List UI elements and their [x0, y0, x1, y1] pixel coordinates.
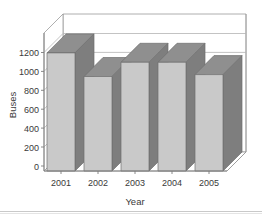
y-tick-label-200: 200: [24, 143, 39, 153]
y-tick-label-400: 400: [24, 124, 39, 134]
x-tick-label-2001: 2001: [51, 178, 71, 188]
y-tick-label-1200: 1200: [19, 48, 39, 58]
y-tick-labels: 1200 1000 800 600 400 200 0: [19, 48, 39, 172]
y-axis: [41, 33, 44, 171]
y-axis-title: Buses: [7, 92, 18, 119]
bar-2002-front: [84, 77, 112, 172]
bar-2001-front: [47, 53, 75, 171]
x-tick-label-2003: 2003: [125, 178, 145, 188]
x-axis-title: Year: [125, 196, 144, 207]
bar-2004-front: [158, 62, 186, 171]
bar-2005[interactable]: [195, 56, 242, 171]
x-tick-labels: 2001 2002 2003 2004 2005: [51, 178, 219, 188]
x-tick-label-2002: 2002: [88, 178, 108, 188]
y-tick-label-600: 600: [24, 105, 39, 115]
bar-2005-front: [195, 75, 223, 171]
bottom-divider: [0, 211, 262, 212]
y-tick-label-1000: 1000: [19, 67, 39, 77]
chart-canvas: 1200 1000 800 600 400 200 0 Buses: [0, 0, 262, 221]
bar-chart: 1200 1000 800 600 400 200 0 Buses: [0, 0, 262, 221]
bottom-divider-secondary: [0, 213, 262, 214]
bar-2003-front: [121, 62, 149, 171]
y-tick-label-800: 800: [24, 86, 39, 96]
bar-2005-side: [223, 56, 242, 171]
x-tick-label-2004: 2004: [162, 178, 182, 188]
x-tick-label-2005: 2005: [199, 178, 219, 188]
y-tick-label-0: 0: [34, 162, 39, 172]
